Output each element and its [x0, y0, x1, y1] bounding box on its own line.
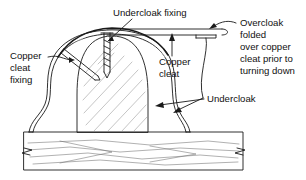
label-undercloak-fixing: Undercloak fixing	[113, 7, 187, 18]
label-overcloak-line4: cleat prior to	[240, 53, 293, 64]
label-overcloak-line5: turning down	[240, 65, 295, 76]
label-copper-cleat-fixing-line3: fixing	[10, 74, 32, 85]
label-copper-cleat-line2: cleat	[159, 68, 180, 79]
roll-seam-cross-section: Undercloak fixing Copper cleat fixing Co…	[0, 0, 306, 180]
label-overcloak-line2: folded	[240, 29, 266, 40]
label-copper-cleat-line1: Copper	[159, 56, 191, 67]
technical-diagram: Undercloak fixing Copper cleat fixing Co…	[0, 0, 306, 180]
label-copper-cleat-fixing-line2: cleat	[10, 62, 31, 73]
label-overcloak-line3: over copper	[240, 41, 291, 52]
label-copper-cleat-fixing-line1: Copper	[10, 50, 42, 61]
label-overcloak-line1: Overcloak	[240, 17, 283, 28]
label-undercloak: Undercloak	[207, 93, 256, 104]
